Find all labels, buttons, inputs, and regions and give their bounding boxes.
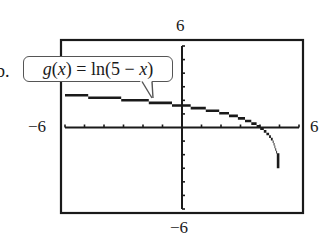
function-curve	[65, 95, 279, 168]
function-label-bubble: g(x) = ln(5 − x)	[23, 56, 173, 82]
function-name: g	[43, 59, 52, 79]
graph-window	[0, 0, 325, 245]
